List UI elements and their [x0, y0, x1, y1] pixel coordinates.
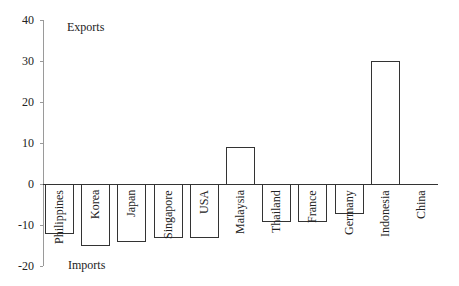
y-tick-label: -20 — [8, 260, 34, 272]
y-tick — [40, 61, 43, 62]
x-axis — [43, 184, 438, 185]
category-label: Singapore — [162, 190, 174, 239]
category-label: Korea — [89, 190, 101, 219]
exports-annotation: Exports — [67, 21, 104, 33]
category-label: Indonesia — [379, 190, 391, 237]
y-tick — [40, 102, 43, 103]
bar-indonesia — [371, 61, 400, 185]
y-tick-label: 40 — [8, 14, 34, 26]
y-tick-label: -10 — [8, 219, 34, 231]
category-label: China — [415, 190, 427, 219]
category-label: Thailand — [270, 190, 282, 233]
category-label: USA — [198, 190, 210, 214]
y-tick — [40, 266, 43, 267]
category-label: France — [306, 190, 318, 223]
y-tick — [40, 143, 43, 144]
y-tick — [40, 20, 43, 21]
y-tick-label: 10 — [8, 137, 34, 149]
category-label: Malaysia — [234, 190, 246, 234]
y-tick-label: 0 — [8, 178, 34, 190]
y-tick — [40, 225, 43, 226]
category-label: Japan — [125, 190, 137, 217]
y-axis — [43, 20, 44, 266]
category-label: Germany — [343, 190, 355, 235]
y-tick-label: 30 — [8, 55, 34, 67]
imports-annotation: Imports — [68, 259, 105, 271]
bar-malaysia — [226, 147, 255, 185]
bar-chart: 403020100-10-20 PhilippinesKoreaJapanSin… — [0, 0, 459, 286]
y-tick-label: 20 — [8, 96, 34, 108]
category-label: Philippines — [53, 190, 65, 244]
